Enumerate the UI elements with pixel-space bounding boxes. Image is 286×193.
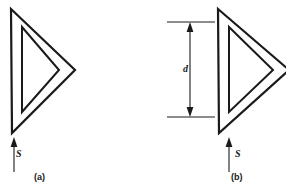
- panel-a-outer-triangle: [11, 9, 75, 133]
- figure-container: S S d (a) (b): [0, 0, 286, 193]
- panel-b-inner-triangle: [229, 27, 273, 112]
- caption-panel-b: (b): [231, 172, 243, 182]
- dimension-arrow-head-top: [187, 22, 194, 32]
- panel-b-arrow-head: [226, 137, 233, 147]
- dimension-label-d: d: [182, 64, 189, 74]
- flow-label-s-panel-a: S: [15, 149, 23, 159]
- panel-a-inner-triangle: [22, 27, 59, 112]
- panel-a-shape-group: [11, 9, 75, 133]
- caption-panel-a: (a): [34, 172, 45, 182]
- panel-a-arrow-head: [11, 137, 18, 147]
- figure-diagram: [0, 0, 286, 193]
- panel-b-shape-group: [218, 9, 286, 133]
- dimension-arrow-head-bottom: [187, 107, 194, 117]
- panel-b-flow-arrow: [226, 137, 233, 172]
- flow-label-s-panel-b: S: [234, 149, 242, 159]
- panel-b-dimension-group: [167, 22, 215, 117]
